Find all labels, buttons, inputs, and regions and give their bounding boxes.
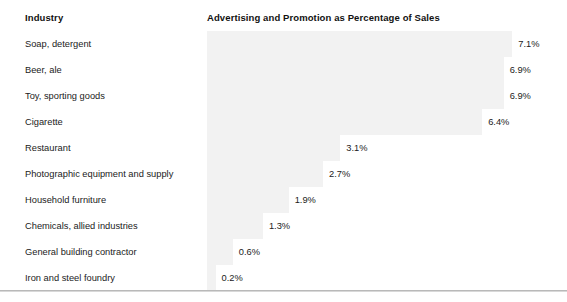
bar-track: 0.2%	[207, 265, 542, 291]
bar	[207, 57, 504, 83]
row-label-industry: Iron and steel foundry	[25, 265, 115, 291]
bar	[207, 31, 512, 57]
bar-track: 2.7%	[207, 161, 542, 187]
row-label-industry: Toy, sporting goods	[25, 83, 105, 109]
bar-track: 1.3%	[207, 213, 542, 239]
bar-track: 7.1%	[207, 31, 542, 57]
bar-track: 6.9%	[207, 83, 542, 109]
row-label-industry: Household furniture	[25, 187, 106, 213]
bar	[207, 109, 482, 135]
row-label-industry: General building contractor	[25, 239, 137, 265]
column-header-industry: Industry	[25, 12, 63, 23]
table-row: Iron and steel foundry0.2%	[0, 265, 567, 291]
bar	[207, 239, 233, 265]
column-header-metric: Advertising and Promotion as Percentage …	[207, 12, 440, 23]
bar-value-label: 3.1%	[340, 135, 367, 161]
bar	[207, 83, 504, 109]
bar	[207, 265, 216, 291]
bar-value-label: 6.4%	[482, 109, 509, 135]
row-label-industry: Chemicals, allied industries	[25, 213, 138, 239]
footer-divider	[0, 290, 567, 292]
bar-track: 6.9%	[207, 57, 542, 83]
row-label-industry: Soap, detergent	[25, 31, 91, 57]
bar-value-label: 1.3%	[263, 213, 290, 239]
bar-track: 6.4%	[207, 109, 542, 135]
bar-value-label: 6.9%	[504, 83, 531, 109]
bar	[207, 135, 340, 161]
table-row: Chemicals, allied industries1.3%	[0, 213, 567, 239]
row-label-industry: Beer, ale	[25, 57, 62, 83]
bar-value-label: 1.9%	[289, 187, 316, 213]
bar	[207, 161, 323, 187]
bar-track: 0.6%	[207, 239, 542, 265]
row-label-industry: Photographic equipment and supply	[25, 161, 173, 187]
bar	[207, 213, 263, 239]
row-label-industry: Restaurant	[25, 135, 70, 161]
bar-track: 3.1%	[207, 135, 542, 161]
table-row: Toy, sporting goods6.9%	[0, 83, 567, 109]
bar	[207, 187, 289, 213]
bar-value-label: 6.9%	[504, 57, 531, 83]
bar-value-label: 0.6%	[233, 239, 260, 265]
table-row: Household furniture1.9%	[0, 187, 567, 213]
bar-value-label: 7.1%	[512, 31, 539, 57]
table-row: General building contractor0.6%	[0, 239, 567, 265]
row-label-industry: Cigarette	[25, 109, 63, 135]
bar-value-label: 0.2%	[216, 265, 243, 291]
bar-value-label: 2.7%	[323, 161, 350, 187]
table-row: Cigarette6.4%	[0, 109, 567, 135]
table-row: Soap, detergent7.1%	[0, 31, 567, 57]
chart-page: Industry Advertising and Promotion as Pe…	[0, 0, 567, 302]
table-row: Restaurant3.1%	[0, 135, 567, 161]
bar-track: 1.9%	[207, 187, 542, 213]
table-row: Photographic equipment and supply2.7%	[0, 161, 567, 187]
table-row: Beer, ale6.9%	[0, 57, 567, 83]
